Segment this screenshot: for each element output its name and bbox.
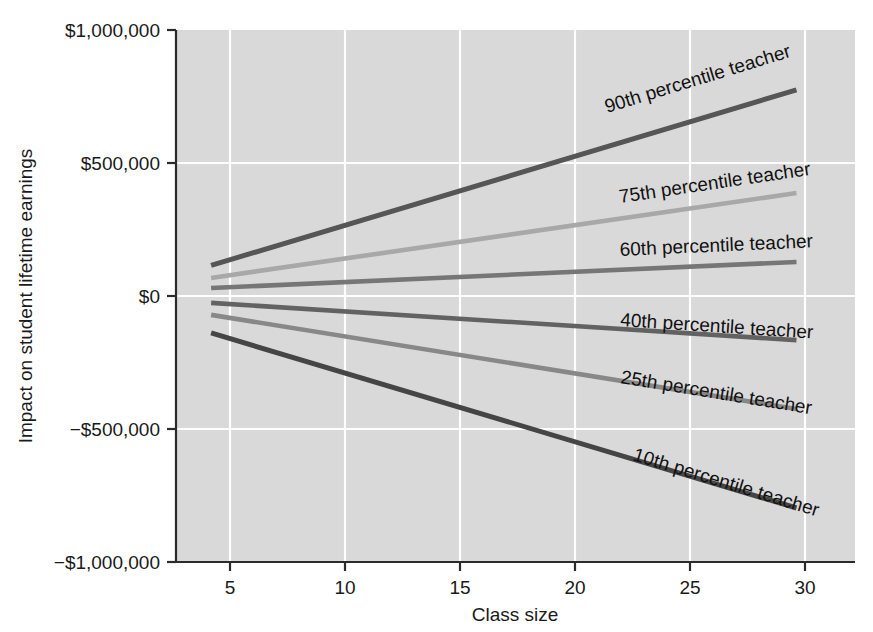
x-tick-label-30: 30 — [794, 577, 815, 598]
x-tick-label-15: 15 — [449, 577, 470, 598]
y-tick-label-0: $0 — [139, 286, 160, 307]
y-tick-label-neg500000: −$500,000 — [70, 419, 160, 440]
x-tick-label-5: 5 — [225, 577, 236, 598]
y-axis-title: Impact on student lifetime earnings — [15, 149, 36, 444]
y-tick-label-1000000: $1,000,000 — [65, 20, 160, 41]
chart-figure: $1,000,000 $500,000 $0 −$500,000 −$1,000… — [0, 0, 873, 632]
y-tick-label-500000: $500,000 — [81, 153, 160, 174]
x-tick-label-10: 10 — [334, 577, 355, 598]
x-tick-label-25: 25 — [679, 577, 700, 598]
x-tick-label-20: 20 — [564, 577, 585, 598]
x-axis-title: Class size — [472, 604, 559, 625]
chart-canvas: $1,000,000 $500,000 $0 −$500,000 −$1,000… — [0, 0, 873, 632]
y-tick-label-neg1000000: −$1,000,000 — [54, 552, 160, 573]
